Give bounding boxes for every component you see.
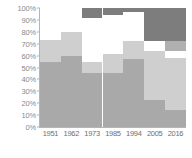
bar-segment	[165, 8, 186, 41]
bar-segment	[40, 8, 61, 40]
x-tick-label: 2016	[165, 129, 186, 138]
x-axis-line	[39, 127, 186, 128]
bar-segment	[40, 40, 61, 61]
bar-segment	[144, 51, 165, 100]
bar-segment	[82, 8, 103, 18]
x-tick-label: 1985	[103, 129, 124, 138]
x-axis-ticks: 1951196219731985199420052016	[40, 129, 186, 138]
bar-segment	[61, 56, 82, 127]
bar-segment	[103, 73, 124, 127]
x-tick-label: 1973	[82, 129, 103, 138]
bar-segment	[40, 62, 61, 127]
bar-segment	[165, 110, 186, 127]
stacked-bar-chart: 100%90%80%70%60%50%40%30%20%10%0% 195119…	[0, 0, 192, 158]
bar-segment	[82, 73, 103, 127]
bar-segment	[165, 41, 186, 51]
bar-segment	[165, 51, 186, 58]
bar-segment	[103, 8, 124, 15]
x-tick-label: 1994	[123, 129, 144, 138]
bar-segment	[61, 32, 82, 56]
y-tick-label: 80%	[22, 27, 36, 36]
y-tick-label: 30%	[22, 87, 36, 96]
bar-column	[165, 8, 186, 127]
bar-column	[40, 8, 61, 127]
bar-column	[144, 8, 165, 127]
y-tick-label: 50%	[22, 63, 36, 72]
bar-column	[123, 8, 144, 127]
y-tick-label: 0%	[26, 123, 36, 132]
y-tick-label: 70%	[22, 39, 36, 48]
y-tick-label: 60%	[22, 51, 36, 60]
y-tick-label: 90%	[22, 15, 36, 24]
y-tick-label: 20%	[22, 99, 36, 108]
y-tick-label: 10%	[22, 111, 36, 120]
bar-segment	[123, 59, 144, 127]
x-tick-label: 1962	[61, 129, 82, 138]
bar-series-group	[40, 8, 186, 127]
bar-segment	[61, 8, 82, 32]
bar-segment	[103, 15, 124, 54]
x-tick-label: 1951	[40, 129, 61, 138]
bar-segment	[82, 18, 103, 62]
bar-column	[103, 8, 124, 127]
y-tick-label: 40%	[22, 75, 36, 84]
bar-segment	[123, 12, 144, 42]
bar-segment	[165, 58, 186, 110]
bar-segment	[144, 100, 165, 127]
bar-segment	[103, 54, 124, 73]
bar-column	[61, 8, 82, 127]
x-tick-label: 2005	[144, 129, 165, 138]
bar-segment	[123, 41, 144, 59]
bar-column	[82, 8, 103, 127]
bar-segment	[144, 41, 165, 51]
y-tick-label: 100%	[18, 4, 36, 13]
plot-area: 100%90%80%70%60%50%40%30%20%10%0%	[40, 8, 186, 127]
bar-segment	[82, 62, 103, 74]
bar-segment	[144, 8, 165, 41]
